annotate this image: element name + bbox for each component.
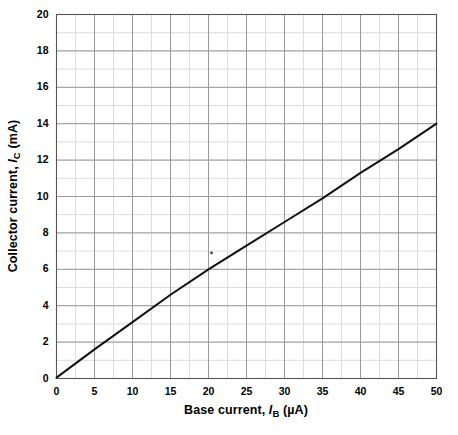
x-tick-label: 25 [235,385,259,397]
y-tick-label: 14 [27,117,49,129]
x-tick-label: 15 [159,385,183,397]
x-tick-label: 50 [425,385,449,397]
x-tick-label: 0 [45,385,69,397]
x-tick-label: 5 [83,385,107,397]
x-tick-label: 20 [197,385,221,397]
chart-figure: Collector current, IC (mA) Base current,… [0,0,458,435]
y-tick-label: 20 [27,8,49,20]
y-tick-label: 0 [27,372,49,384]
y-tick-label: 6 [27,262,49,274]
x-tick-label: 10 [121,385,145,397]
plot-area [0,0,458,435]
x-tick-label: 45 [387,385,411,397]
y-tick-label: 12 [27,153,49,165]
stray-dot-marker [210,252,213,255]
annotation-layer [210,252,213,255]
x-tick-label: 40 [349,385,373,397]
x-tick-label: 30 [273,385,297,397]
y-tick-label: 8 [27,226,49,238]
x-tick-label: 35 [311,385,335,397]
y-tick-label: 10 [27,190,49,202]
y-tick-label: 16 [27,80,49,92]
y-tick-label: 4 [27,299,49,311]
y-tick-label: 18 [27,44,49,56]
y-tick-label: 2 [27,335,49,347]
